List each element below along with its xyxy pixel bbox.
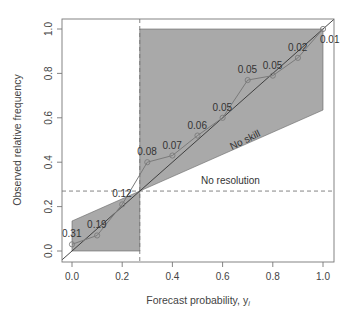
point-label: 0.31 [62, 228, 82, 239]
point-label: 0.19 [87, 219, 107, 230]
y-tick-label: 0.0 [43, 244, 54, 258]
point-label: 0.02 [288, 42, 308, 53]
x-tick-label: 0.0 [65, 271, 79, 282]
x-tick-label: 1.0 [316, 271, 330, 282]
point-label: 0.01 [320, 34, 340, 45]
x-axis-title: Forecast probability, yi [146, 294, 250, 307]
y-tick-label: 0.6 [43, 110, 54, 124]
y-tick-label: 1.0 [43, 22, 54, 36]
x-tick-label: 0.2 [115, 271, 129, 282]
no-resolution-label: No resolution [201, 175, 260, 186]
point-label: 0.05 [213, 102, 233, 113]
y-axis-title: Observed relative frequency [11, 74, 23, 206]
point-label: 0.07 [162, 140, 182, 151]
point-label: 0.05 [238, 64, 258, 75]
reliability-diagram: 0.310.190.120.080.070.060.050.050.050.02… [0, 0, 354, 312]
y-tick-label: 0.4 [43, 155, 54, 169]
y-tick-label: 0.8 [43, 66, 54, 80]
point-label: 0.05 [263, 60, 283, 71]
x-tick-label: 0.4 [165, 271, 179, 282]
x-tick-label: 0.6 [216, 271, 230, 282]
point-label: 0.06 [188, 120, 208, 131]
y-tick-label: 0.2 [43, 199, 54, 213]
x-tick-label: 0.8 [266, 271, 280, 282]
point-label: 0.08 [137, 146, 157, 157]
point-label: 0.12 [112, 188, 132, 199]
